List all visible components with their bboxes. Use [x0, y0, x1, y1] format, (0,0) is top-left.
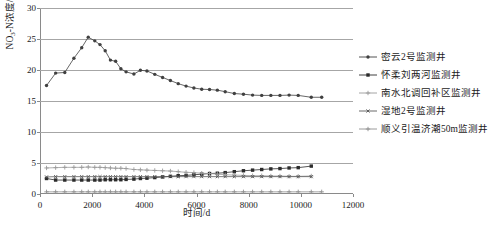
- y-tick-label: 25: [27, 34, 36, 44]
- x-tick-mark: [144, 194, 145, 197]
- legend-label: 南水北调回补区监测井: [381, 87, 481, 99]
- y-tick-label: 15: [27, 96, 36, 106]
- legend-item[interactable]: 顺义引温济潮50m监测井: [358, 120, 491, 138]
- legend-swatch-plus-icon: [358, 123, 378, 135]
- x-tick-mark: [353, 194, 354, 197]
- y-axis-title-text: NO3-N浓度/(mg/L): [5, 0, 15, 49]
- legend-label: 密云2号监测井: [381, 51, 446, 63]
- chart-legend: 密云2号监测井怀柔刘两河监测井南水北调回补区监测井湿地2号监测井顺义引温济潮50…: [358, 48, 491, 138]
- y-tick-label: 5: [32, 158, 37, 168]
- legend-swatch-cross-icon: [358, 105, 378, 117]
- x-tick-mark: [197, 194, 198, 197]
- y-tick-label: 10: [27, 127, 36, 137]
- legend-swatch-circle-icon: [358, 51, 378, 63]
- legend-item[interactable]: 南水北调回补区监测井: [358, 84, 491, 102]
- y-tick-label: 20: [27, 65, 36, 75]
- legend-item[interactable]: 湿地2号监测井: [358, 102, 491, 120]
- legend-swatch-square-icon: [358, 69, 378, 81]
- y-tick-label: 30: [27, 3, 36, 13]
- legend-item[interactable]: 怀柔刘两河监测井: [358, 66, 491, 84]
- x-tick-mark: [40, 194, 41, 197]
- plot-area: 051015202530 020004000600080001000012000: [40, 8, 353, 194]
- x-axis-title: 时间/d: [40, 205, 353, 219]
- chart-figure: NO3-N浓度/(mg/L) 051015202530 020004000600…: [0, 0, 491, 226]
- series-layer: [40, 8, 353, 194]
- legend-swatch-plus-icon: [358, 87, 378, 99]
- legend-label: 顺义引温济潮50m监测井: [381, 123, 488, 135]
- y-axis-title-subscript: 3: [9, 32, 17, 36]
- y-axis-title-no: NO: [5, 36, 15, 50]
- y-tick-label: 0: [32, 189, 37, 199]
- series-1: [45, 35, 324, 99]
- y-axis-title-units: -N浓度/(mg/L): [5, 0, 15, 32]
- legend-label: 湿地2号监测井: [381, 105, 446, 117]
- legend-item[interactable]: 密云2号监测井: [358, 48, 491, 66]
- y-axis-title: NO3-N浓度/(mg/L): [2, 0, 18, 66]
- x-tick-mark: [249, 194, 250, 197]
- x-tick-mark: [301, 194, 302, 197]
- series-5: [44, 190, 324, 194]
- legend-label: 怀柔刘两河监测井: [381, 69, 461, 81]
- series-line: [47, 37, 322, 97]
- x-tick-mark: [92, 194, 93, 197]
